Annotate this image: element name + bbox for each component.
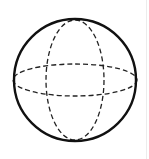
meridian-ellipse xyxy=(46,20,104,140)
sphere-diagram: Sphere xyxy=(0,0,149,159)
edge-divider xyxy=(146,0,147,159)
sphere-svg xyxy=(0,0,149,159)
equator-ellipse xyxy=(13,64,137,96)
sphere-outline xyxy=(14,19,136,141)
